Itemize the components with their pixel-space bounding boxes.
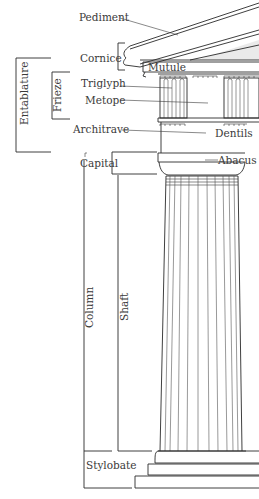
label-shaft: Shaft <box>118 292 130 321</box>
label-column: Column <box>83 287 95 328</box>
label-triglyph: Triglyph <box>81 77 126 89</box>
label-architrave: Architrave <box>72 123 129 135</box>
label-entablature: Entablature <box>18 62 30 125</box>
label-capital: Capital <box>80 157 119 169</box>
doric-column-diagram: Pediment Cornice Mutule Triglyph Metope … <box>0 0 259 499</box>
triglyph-left <box>160 78 187 118</box>
label-cornice: Cornice <box>80 52 122 64</box>
triglyph-right <box>224 78 259 118</box>
leader-lines <box>120 18 218 160</box>
pediment-drawing <box>130 3 259 67</box>
label-metope: Metope <box>85 94 125 106</box>
label-dentils: Dentils <box>215 127 253 139</box>
brackets <box>16 43 157 488</box>
label-frieze: Frieze <box>51 78 63 112</box>
stylobate-steps <box>135 451 259 488</box>
shaft-drawing <box>160 176 242 451</box>
label-pediment: Pediment <box>79 11 130 23</box>
label-mutule: Mutule <box>148 61 186 73</box>
label-abacus: Abacus <box>217 154 257 166</box>
label-stylobate: Stylobate <box>86 459 136 471</box>
mutule-blocks <box>158 74 259 78</box>
